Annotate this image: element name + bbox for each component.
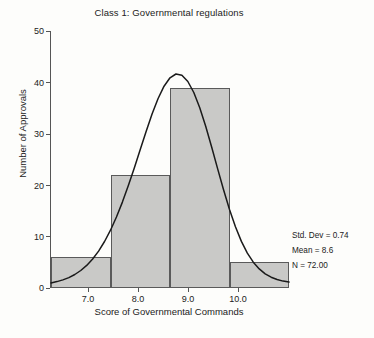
x-tick-mark-9 — [188, 288, 189, 292]
plot-area — [50, 31, 288, 288]
x-tick-mark-7 — [88, 288, 89, 292]
y-tick-label-0: 0 — [14, 283, 44, 293]
y-tick-label-10: 10 — [14, 232, 44, 242]
x-tick-label-8: 8.0 — [118, 294, 158, 304]
x-tick-label-7: 7.0 — [68, 294, 108, 304]
normal-distribution-curve — [51, 31, 289, 288]
y-tick-mark-0 — [46, 288, 50, 289]
stat-mean: Mean = 8.6 — [292, 243, 349, 258]
statistics-annotation: Std. Dev = 0.74 Mean = 8.6 N = 72.00 — [292, 228, 349, 273]
y-tick-label-50: 50 — [14, 26, 44, 36]
x-tick-label-9: 9.0 — [168, 294, 208, 304]
stat-n: N = 72.00 — [292, 258, 349, 273]
chart-title: Class 1: Governmental regulations — [50, 7, 288, 18]
x-tick-mark-10 — [238, 288, 239, 292]
y-tick-label-30: 30 — [14, 129, 44, 139]
plot-inner — [51, 31, 289, 288]
stat-std-dev: Std. Dev = 0.74 — [292, 228, 349, 243]
histogram-figure: Class 1: Governmental regulations Number… — [0, 0, 374, 338]
x-axis-title: Score of Governmental Commands — [50, 306, 288, 317]
y-tick-label-40: 40 — [14, 78, 44, 88]
x-tick-mark-8 — [138, 288, 139, 292]
y-tick-label-20: 20 — [14, 181, 44, 191]
x-tick-label-10: 10.0 — [218, 294, 258, 304]
